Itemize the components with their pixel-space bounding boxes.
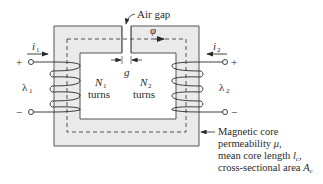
turns-2-label: N 2 turns	[133, 76, 155, 100]
plus-sign-1: +	[16, 56, 22, 68]
svg-text:2: 2	[226, 87, 230, 95]
terminal-plus-1	[29, 60, 34, 65]
svg-text:1: 1	[29, 87, 33, 95]
turns-1-label: N 1 turns	[88, 76, 110, 100]
minus-sign-2: −	[231, 106, 237, 118]
svg-text:turns: turns	[133, 88, 155, 100]
flux-linkage-2: λ 2	[219, 81, 230, 95]
svg-text:N: N	[94, 76, 103, 88]
flux-linkage-1: λ 1	[22, 81, 33, 95]
plus-sign-2: +	[231, 56, 237, 68]
terminal-minus-1	[29, 110, 34, 115]
gap-length-symbol: g	[124, 66, 130, 78]
svg-text:1: 1	[36, 46, 40, 54]
gap-dimension: g	[111, 56, 142, 78]
magnetic-core	[54, 25, 199, 146]
current-2: i 2	[207, 40, 227, 54]
svg-text:turns: turns	[88, 88, 110, 100]
svg-text:λ: λ	[219, 81, 225, 93]
core-desc-line2: permeability μ,	[218, 138, 282, 149]
air-gap-label: Air gap	[126, 8, 171, 24]
minus-sign-1: −	[16, 106, 22, 118]
current-1: i 1	[27, 40, 48, 54]
svg-text:i: i	[213, 40, 216, 52]
core-desc-line1: Magnetic core	[218, 126, 279, 137]
core-description: Magnetic core permeability μ, mean core …	[201, 126, 313, 175]
flux-symbol: φ	[150, 24, 156, 36]
core-desc-line4: cross-sectional area Ac	[218, 162, 313, 175]
air-gap-text: Air gap	[137, 8, 171, 20]
svg-text:N: N	[139, 76, 148, 88]
svg-text:i: i	[32, 40, 35, 52]
svg-text:2: 2	[217, 46, 221, 54]
terminal-plus-2	[223, 60, 228, 65]
svg-text:λ: λ	[22, 81, 28, 93]
magnetic-circuit-diagram: Air gap φ g + − i 1 λ 1 N 1 turns	[0, 0, 323, 184]
terminal-minus-2	[223, 110, 228, 115]
